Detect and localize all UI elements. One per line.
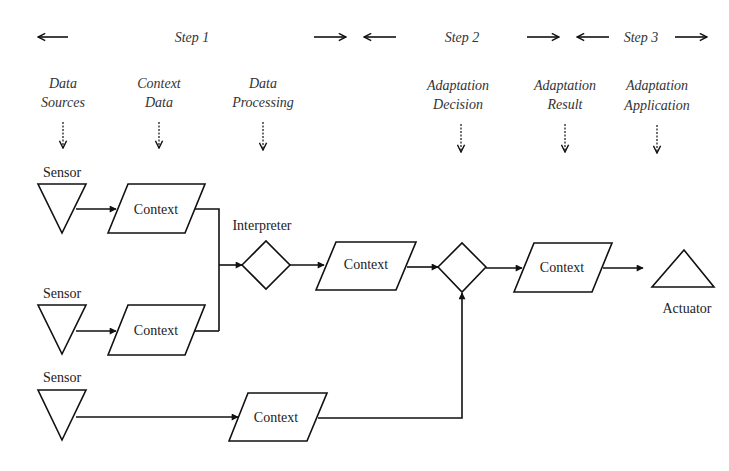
phase-label-line2: Sources	[41, 95, 85, 110]
phase-data-sources: Data Sources	[41, 76, 85, 148]
sensor-3-label: Sensor	[43, 370, 81, 385]
actuator-label: Actuator	[663, 301, 712, 316]
actuator-triangle-icon	[652, 250, 714, 287]
phase-label-line2: Application	[623, 98, 689, 113]
step-1-span: Step 1	[38, 30, 346, 45]
adaptation-decision-diamond	[438, 243, 486, 292]
phase-label-line1: Context	[137, 76, 182, 91]
step-3-span: Step 3	[577, 30, 707, 45]
step-2-label: Step 2	[445, 30, 480, 45]
phase-label-line1: Adaptation	[426, 78, 489, 93]
context-adaptation-diagram: Step 1 Step 2 Step 3 Data Sources Contex…	[0, 0, 729, 471]
edge-context5-decision	[318, 293, 462, 418]
phase-label-line1: Adaptation	[625, 78, 688, 93]
phase-adaptation-decision: Adaptation Decision	[426, 78, 489, 152]
interpreter-diamond	[242, 241, 290, 289]
context-3-label: Context	[344, 257, 388, 272]
step-2-span: Step 2	[364, 30, 559, 45]
sensor-2-triangle-icon	[38, 305, 86, 354]
step-3-label: Step 3	[624, 30, 659, 45]
phase-label-line2: Processing	[231, 95, 294, 110]
context-2-label: Context	[134, 323, 178, 338]
sensor-1-label: Sensor	[43, 165, 81, 180]
step-1-label: Step 1	[175, 30, 210, 45]
phase-label-line2: Decision	[432, 97, 483, 112]
phase-adaptation-result: Adaptation Result	[533, 78, 596, 152]
sensor-2-label: Sensor	[43, 286, 81, 301]
phase-data-processing: Data Processing	[231, 76, 294, 150]
context-5-label: Context	[254, 410, 298, 425]
phase-adaptation-application: Adaptation Application	[623, 78, 689, 153]
context-4-label: Context	[540, 260, 584, 275]
sensor-3-triangle-icon	[38, 390, 86, 440]
phase-label-line1: Data	[48, 76, 77, 91]
phase-label-line1: Data	[248, 76, 277, 91]
context-1-label: Context	[134, 202, 178, 217]
phase-label-line1: Adaptation	[533, 78, 596, 93]
interpreter-label: Interpreter	[232, 218, 291, 233]
phase-context-data: Context Data	[137, 76, 182, 148]
phase-label-line2: Data	[144, 95, 173, 110]
phase-label-line2: Result	[547, 97, 584, 112]
